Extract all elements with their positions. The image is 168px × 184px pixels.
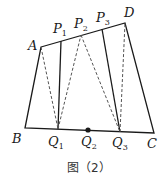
dashed-p2q3 [81, 35, 120, 132]
dashed-q3d [120, 23, 125, 132]
geometry-figure: A D B C P1 P2 P3 Q1 Q2 Q3 图（2） [0, 0, 168, 184]
figure-caption: 图（2） [67, 161, 111, 175]
quadrilateral-abcd [25, 23, 154, 133]
segment-p3q3 [102, 29, 120, 132]
dashed-q1p2 [58, 35, 81, 129]
label-q1: Q1 [48, 134, 64, 151]
label-p3: P3 [95, 10, 110, 27]
dashed-aq1 [41, 47, 58, 129]
label-p1: P1 [52, 21, 67, 38]
label-b: B [11, 131, 22, 146]
label-q3: Q3 [112, 135, 128, 152]
label-c: C [147, 136, 157, 151]
label-d: D [123, 5, 135, 20]
point-q2-dot [85, 127, 90, 132]
label-a: A [27, 38, 37, 53]
segment-p1q1 [58, 41, 61, 129]
label-q2: Q2 [81, 134, 97, 151]
label-p2: P2 [73, 16, 88, 33]
